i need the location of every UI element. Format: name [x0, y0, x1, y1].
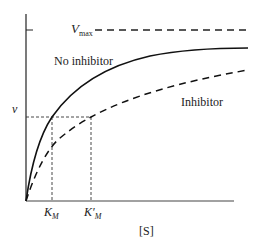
no-inhibitor-curve	[26, 48, 248, 201]
km-prime-label: K′M	[84, 206, 101, 221]
no-inhibitor-label: No inhibitor	[54, 55, 113, 67]
km-label-main: K	[44, 205, 52, 219]
inhibitor-label: Inhibitor	[181, 96, 223, 108]
vmax-label-sub: max	[79, 29, 93, 38]
inhibitor-curve	[26, 70, 248, 201]
km-prime-label-main: K′	[84, 205, 95, 219]
v-label: v	[12, 103, 17, 115]
km-label-sub: M	[52, 212, 59, 221]
chart-canvas	[0, 0, 262, 245]
vmax-label: Vmax	[71, 22, 93, 38]
vmax-label-main: V	[71, 21, 79, 36]
km-label: KM	[44, 206, 59, 221]
x-axis-label: [S]	[139, 225, 154, 237]
km-prime-label-sub: M	[95, 212, 102, 221]
